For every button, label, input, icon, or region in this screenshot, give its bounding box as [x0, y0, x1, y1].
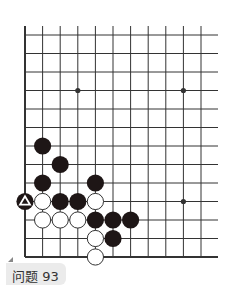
white-stone [87, 193, 103, 209]
black-stone [104, 230, 121, 247]
black-stone [52, 156, 69, 173]
black-stone [69, 193, 86, 210]
white-stone [35, 193, 51, 209]
white-stone [87, 230, 103, 246]
problem-label-box: 问题 93 [6, 263, 66, 285]
star-point [181, 88, 186, 93]
white-stone [87, 249, 103, 265]
black-stone [122, 211, 139, 228]
go-board [0, 0, 231, 302]
black-stone [52, 193, 69, 210]
star-point [75, 88, 80, 93]
black-stone [34, 174, 51, 191]
white-stone [70, 212, 86, 228]
corner-mark-icon [8, 257, 13, 262]
black-stone [87, 174, 104, 191]
white-stone [35, 212, 51, 228]
white-stone [52, 212, 68, 228]
problem-label: 问题 93 [12, 266, 59, 285]
black-stone [34, 137, 51, 154]
star-point [181, 199, 186, 204]
black-stone [87, 211, 104, 228]
black-stone [104, 211, 121, 228]
